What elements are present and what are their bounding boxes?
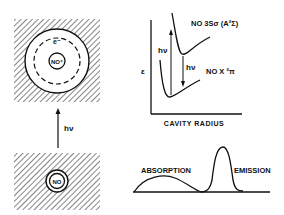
absorption-band	[134, 176, 201, 192]
excited-cavity-panel: e⁻ NO⁺	[14, 19, 100, 102]
emission-arrow-label: hν	[186, 63, 196, 72]
ion-label: NO⁺	[51, 59, 63, 65]
absorption-arrow-label: hν	[158, 46, 168, 55]
ground-cavity-panel: NO	[14, 153, 100, 210]
diagram-canvas: e⁻ NO⁺ hν NO ε CAVITY RADIUS hν hν NO 3S…	[0, 0, 284, 215]
molecule-label: NO	[53, 179, 62, 185]
emission-label: EMISSION	[234, 166, 271, 175]
electron-label: e⁻	[53, 38, 61, 45]
y-axis-label: ε	[141, 67, 145, 76]
upper-state-label: NO 3Sσ (A²Σ)	[191, 19, 239, 28]
excitation-arrow-label: hν	[64, 124, 74, 133]
spectrum-diagram: ABSORPTION EMISSION	[133, 147, 271, 192]
lower-state-label: NO X ²π	[206, 67, 235, 76]
x-axis-label: CAVITY RADIUS	[164, 120, 224, 127]
energy-diagram: ε CAVITY RADIUS hν hν NO 3Sσ (A²Σ) NO X …	[141, 13, 242, 127]
excitation-arrow: hν	[56, 108, 74, 148]
absorption-label: ABSORPTION	[141, 166, 191, 175]
